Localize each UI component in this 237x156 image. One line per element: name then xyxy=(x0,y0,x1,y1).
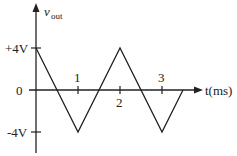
y-tick-label-minus4: -4V xyxy=(7,125,28,140)
x-tick-label-1: 1 xyxy=(74,70,81,85)
y-tick-label-zero: 0 xyxy=(16,83,23,98)
x-tick-label-3: 3 xyxy=(158,70,165,85)
y-axis-label: v xyxy=(44,4,50,19)
x-axis-label: t(ms) xyxy=(205,83,232,98)
y-tick-label-plus4: +4V xyxy=(5,41,29,56)
triangle-wave-diagram: v out +4V 0 -4V 1 2 3 t(ms) xyxy=(0,0,237,156)
x-axis-arrow-icon xyxy=(194,87,203,94)
x-tick-label-2: 2 xyxy=(116,95,123,110)
y-axis-subscript: out xyxy=(51,11,63,21)
y-axis-arrow-icon xyxy=(33,3,40,12)
